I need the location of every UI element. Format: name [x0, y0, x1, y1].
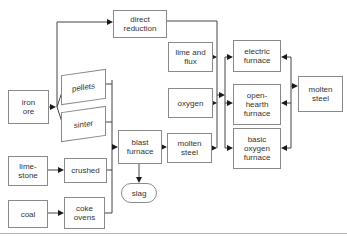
arrowhead-a-into-b — [219, 92, 225, 98]
bottom-rule — [0, 233, 347, 234]
node-label: slag — [132, 189, 147, 198]
node-molten-steel-final: molten steel — [298, 76, 343, 112]
arrowhead-into-basicoxygen-right — [281, 145, 287, 151]
steelmaking-flowchart: direct reduction iron ore pellets sinter… — [0, 0, 347, 237]
node-label: flux — [184, 57, 196, 66]
node-label: lime- — [19, 162, 36, 171]
node-label: stone — [18, 171, 38, 180]
node-pellets: pellets — [61, 69, 106, 105]
node-label: furnace — [244, 56, 271, 65]
node-label: crushed — [71, 166, 99, 175]
arrowhead-into-openhearth-right — [281, 100, 287, 106]
node-label: oxygen — [244, 144, 270, 153]
node-label: electric — [244, 47, 269, 56]
node-label: reduction — [124, 24, 157, 33]
node-label: steel — [312, 94, 329, 103]
node-label: steel — [181, 148, 198, 157]
node-crushed: crushed — [64, 158, 107, 183]
node-electric-furnace: electric furnace — [233, 40, 281, 72]
node-molten-steel-mid: molten steel — [167, 133, 212, 163]
node-coke-ovens: coke ovens — [64, 197, 105, 229]
node-label: iron — [22, 98, 35, 107]
node-limestone: lime- stone — [8, 156, 48, 186]
arrowhead-into-junction — [50, 104, 56, 110]
node-label: basic — [248, 135, 267, 144]
node-label: blast — [132, 138, 149, 147]
node-label: ovens — [74, 213, 95, 222]
node-label: open- — [247, 91, 267, 100]
node-label: sinter — [74, 118, 94, 130]
node-oxygen: oxygen — [168, 88, 213, 118]
node-basic-oxygen-furnace: basic oxygen furnace — [233, 128, 281, 169]
node-coal: coal — [8, 200, 48, 228]
arrowhead-into-electric-right — [281, 54, 287, 60]
node-label: molten — [177, 139, 201, 148]
node-label: molten — [308, 85, 332, 94]
node-label: ore — [23, 107, 35, 116]
node-direct-reduction: direct reduction — [113, 10, 167, 38]
node-lime-and-flux: lime and flux — [168, 42, 213, 72]
node-label: oxygen — [178, 99, 204, 108]
node-label: coal — [21, 210, 36, 219]
node-label: furnace — [244, 109, 271, 118]
node-label: furnace — [127, 147, 154, 156]
node-blast-furnace: blast furnace — [118, 130, 162, 164]
connector-layer — [0, 0, 347, 237]
node-iron-ore: iron ore — [8, 90, 49, 124]
node-label: direct — [130, 15, 150, 24]
node-label: coke — [76, 204, 93, 213]
node-slag: slag — [121, 183, 157, 203]
node-label: furnace — [244, 153, 271, 162]
node-label: lime and — [175, 48, 205, 57]
node-label: hearth — [246, 100, 269, 109]
node-sinter: sinter — [61, 106, 106, 142]
node-open-hearth-furnace: open- hearth furnace — [233, 84, 281, 125]
node-label: pellets — [72, 81, 95, 93]
